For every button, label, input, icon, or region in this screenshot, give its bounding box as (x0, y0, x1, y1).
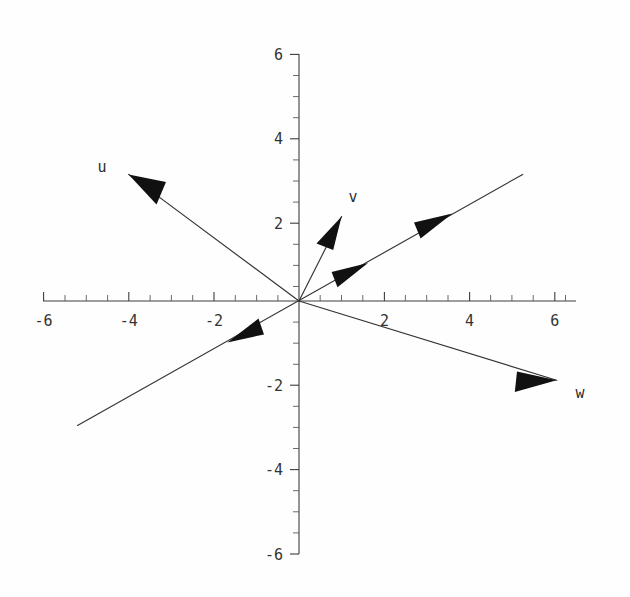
y-axis-major-ticks (290, 54, 299, 554)
vector-w-shaft (299, 301, 557, 380)
vector-label-u: u (97, 158, 106, 176)
x-axis-minor-ticks (65, 295, 566, 301)
vector-v-arrowhead (317, 217, 342, 250)
x-tick-label-4: 4 (465, 312, 474, 330)
vector-w-arrowhead (515, 371, 557, 392)
x-tick-label--2: -2 (205, 312, 223, 330)
y-tick-label-4: 4 (274, 130, 283, 148)
x-tick-label-6: 6 (550, 312, 559, 330)
y-tick-label-6: 6 (274, 46, 283, 64)
y-axis-group: 6 4 2 -2 -4 -6 (265, 46, 299, 564)
x-tick-label--6: -6 (35, 312, 53, 330)
y-axis-minor-ticks (293, 76, 299, 533)
y-tick-label--2: -2 (265, 377, 283, 395)
vector-u-arrowhead (129, 174, 166, 204)
y-tick-label-2: 2 (274, 215, 283, 233)
y-tick-label--4: -4 (265, 461, 283, 479)
y-tick-label--6: -6 (265, 546, 283, 564)
x-axis-group: -6 -4 -2 2 4 6 (35, 292, 576, 330)
vector-w (299, 301, 557, 392)
vector-label-w: w (575, 384, 585, 402)
vector-u (129, 174, 299, 301)
plot-canvas: -6 -4 -2 2 4 6 (0, 0, 630, 597)
x-tick-label--4: -4 (120, 312, 138, 330)
vector-plot-figure: -6 -4 -2 2 4 6 (0, 0, 630, 597)
vector-label-v: v (348, 188, 357, 206)
span-line-arrowhead-forward-1 (332, 263, 368, 287)
span-line-arrowhead-forward-2 (414, 214, 452, 239)
span-line-arrowhead-backward (227, 319, 264, 343)
